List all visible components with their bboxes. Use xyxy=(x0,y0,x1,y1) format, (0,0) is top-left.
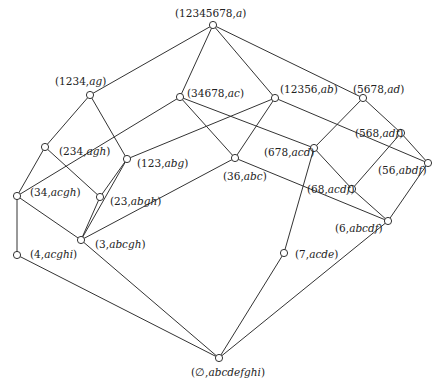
edge-n23-n3 xyxy=(81,197,100,240)
concept-label-n12356: (12356,ab) xyxy=(280,83,338,95)
concept-label-bottom: (∅,abcdefghi) xyxy=(191,366,265,378)
concept-extent: (4, xyxy=(30,248,44,260)
concept-extent: (3, xyxy=(95,238,109,250)
edge-n12356-n123 xyxy=(127,98,275,159)
concept-extent: (5678, xyxy=(353,83,387,95)
concept-label-n36: (36,abc) xyxy=(223,170,267,182)
concept-label-top: (12345678,a) xyxy=(175,7,246,19)
concept-intent: abcdf xyxy=(349,222,381,234)
concept-label-n56: (56,abdf) xyxy=(378,164,427,176)
concept-extent: (6, xyxy=(335,222,349,234)
concept-label-n68: (68,acdf) xyxy=(307,183,355,195)
edge-n4-bottom xyxy=(17,255,219,358)
concept-label-n234: (234,agh) xyxy=(59,145,110,157)
concept-intent: abc xyxy=(244,170,263,182)
concept-intent: abdf xyxy=(399,164,425,176)
concept-extent: (12356, xyxy=(280,83,321,95)
edge-n34-n3 xyxy=(17,196,81,240)
concept-extent: (7, xyxy=(295,248,309,260)
edge-n6-bottom xyxy=(219,221,388,358)
concept-label-n34: (34,acgh) xyxy=(30,186,81,198)
edge-n1234-n234 xyxy=(45,95,90,147)
concept-label-n678: (678,acd) xyxy=(264,146,314,158)
concept-label-n7: (7,acde) xyxy=(295,248,338,260)
concept-extent: (34678, xyxy=(187,87,228,99)
concept-intent: acd xyxy=(291,146,310,158)
concept-label-n123: (123,abg) xyxy=(137,157,188,169)
edge-n123-n23 xyxy=(100,159,127,197)
concept-label-n3: (3,abcgh) xyxy=(95,238,146,250)
concept-intent: ab xyxy=(321,83,334,95)
concept-label-n6: (6,abcdf) xyxy=(335,222,383,234)
concept-extent: (678, xyxy=(264,146,291,158)
concept-label-n5678: (5678,ad) xyxy=(353,83,404,95)
concept-intent: acdf xyxy=(328,183,353,195)
concept-node-n1234 xyxy=(86,91,93,98)
concept-label-n1234: (1234,ag) xyxy=(55,75,106,87)
edge-n68-n6 xyxy=(352,189,388,221)
concept-node-n34678 xyxy=(176,93,183,100)
concept-extent: (68, xyxy=(307,183,328,195)
concept-extent: (123, xyxy=(137,157,164,169)
concept-node-n12356 xyxy=(271,94,278,101)
concept-node-n23 xyxy=(96,193,103,200)
concept-extent: (568, xyxy=(355,127,382,139)
concept-node-n123 xyxy=(123,155,130,162)
concept-extent: (234, xyxy=(59,145,86,157)
concept-intent: acde xyxy=(309,248,334,260)
concept-node-n3 xyxy=(77,236,84,243)
concept-label-n23: (23,abgh) xyxy=(110,195,161,207)
edge-n678-n7 xyxy=(284,148,314,253)
concept-node-n5678 xyxy=(359,94,366,101)
concept-node-n36 xyxy=(231,154,238,161)
edge-n568-n56 xyxy=(401,133,428,163)
concept-intent: abgh xyxy=(131,195,157,207)
concept-intent: ag xyxy=(89,75,102,87)
concept-extent: (36, xyxy=(223,170,244,182)
concept-node-n7 xyxy=(280,249,287,256)
concept-extent: (23, xyxy=(110,195,131,207)
concept-node-n234 xyxy=(41,143,48,150)
concept-intent: acgh xyxy=(51,186,77,198)
concept-intent: agh xyxy=(86,145,106,157)
concept-extent: (12345678, xyxy=(175,7,236,19)
concept-extent: (∅, xyxy=(191,366,208,378)
concept-lattice-diagram: (12345678,a)(1234,ag)(34678,ac)(12356,ab… xyxy=(0,0,442,385)
edge-n3-bottom xyxy=(81,240,219,358)
concept-intent: acghi xyxy=(44,248,73,260)
edge-top-n1234 xyxy=(90,25,213,95)
concept-node-bottom xyxy=(215,354,222,361)
concept-intent: ad xyxy=(387,83,400,95)
concept-node-n34 xyxy=(13,192,20,199)
concept-intent: abg xyxy=(164,157,184,169)
edge-n34678-n36 xyxy=(180,97,235,158)
concept-label-n4: (4,acghi) xyxy=(30,248,77,260)
concept-extent: (1234, xyxy=(55,75,89,87)
concept-intent: abcdefghi xyxy=(208,366,261,378)
concept-node-top xyxy=(209,21,216,28)
concept-extent: (56, xyxy=(378,164,399,176)
lattice-labels: (12345678,a)(1234,ag)(34678,ac)(12356,ab… xyxy=(30,7,427,378)
edge-n7-bottom xyxy=(219,253,284,358)
concept-node-n6 xyxy=(384,217,391,224)
concept-label-n34678: (34678,ac) xyxy=(187,87,244,99)
concept-extent: (34, xyxy=(30,186,51,198)
edge-n5678-n678 xyxy=(314,98,363,148)
concept-intent: abcgh xyxy=(109,238,141,250)
concept-label-n568: (568,adf) xyxy=(355,127,403,139)
concept-intent: ac xyxy=(228,87,240,99)
concept-node-n4 xyxy=(13,251,20,258)
